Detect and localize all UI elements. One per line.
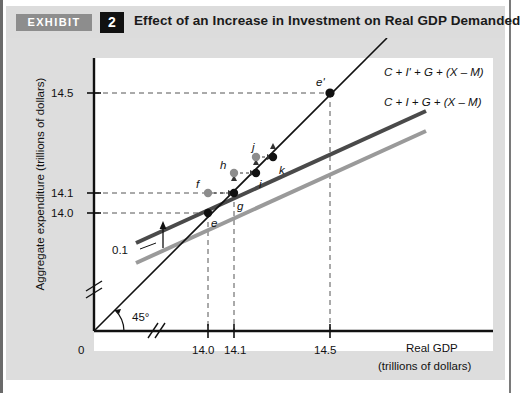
- angle-arc: [115, 310, 124, 331]
- curve-label-ae-new: C + I' + G + (X – M): [384, 66, 484, 78]
- x-axis-label: Real GDP: [406, 342, 458, 354]
- shift-annotation-label: 0.1: [112, 244, 128, 256]
- point-h: [230, 169, 238, 177]
- exhibit-title: Effect of an Increase in Investment on R…: [134, 13, 520, 28]
- y-tick-label-14-1: 14.1: [51, 187, 73, 199]
- line-ae-original: [136, 131, 426, 263]
- axis-break-marks: [86, 281, 165, 338]
- point-label-h: h: [220, 159, 226, 171]
- angle-label: 45°: [132, 311, 149, 323]
- exhibit-header: EXHIBIT 2 Effect of an Increase in Inves…: [6, 6, 505, 38]
- point-label-f: f: [196, 178, 201, 190]
- x-tick-label-14-1: 14.1: [224, 344, 246, 356]
- point-e-prime: [325, 88, 334, 97]
- figure-panel: EXHIBIT 2 Effect of an Increase in Inves…: [6, 6, 505, 380]
- chart-area: Aggregate expenditure (trillions of doll…: [6, 38, 505, 380]
- point-label-e: e: [211, 217, 217, 229]
- y-tick-label-14-5: 14.5: [51, 87, 73, 99]
- point-label-g: g: [237, 200, 244, 212]
- curve-label-ae-original: C + I + G + (X – M): [384, 96, 482, 108]
- arrow-up-3: [270, 143, 276, 149]
- point-label-j: j: [250, 141, 255, 153]
- x-tick-label-14-5: 14.5: [314, 344, 336, 356]
- origin-label: 0: [78, 344, 84, 356]
- x-axis-label-units: (trillions of dollars): [378, 360, 471, 372]
- point-j: [252, 153, 260, 161]
- data-points: [204, 88, 335, 217]
- point-k: [269, 153, 277, 161]
- y-tick-label-14-0: 14.0: [51, 207, 73, 219]
- point-label-i: i: [259, 178, 262, 190]
- point-label-e-prime: e': [316, 76, 325, 88]
- exhibit-number-box: 2: [100, 12, 124, 33]
- point-g: [230, 189, 238, 197]
- line-ae-new: [136, 111, 426, 243]
- x-tick-label-14-0: 14.0: [192, 344, 214, 356]
- point-e: [204, 209, 212, 217]
- point-f: [204, 189, 212, 197]
- chart-svg: e f g h i j k e' C + I' + G + (X – M) C …: [6, 38, 505, 380]
- line-45-degree: [94, 38, 387, 331]
- point-i: [252, 169, 260, 177]
- exhibit-badge: EXHIBIT: [16, 14, 92, 31]
